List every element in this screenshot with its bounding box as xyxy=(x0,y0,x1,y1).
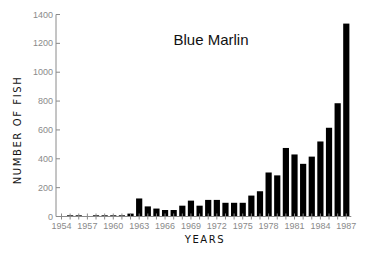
y-tick-label: 1200 xyxy=(33,38,53,48)
x-tick-label: 1963 xyxy=(129,221,149,231)
x-tick-label: 1954 xyxy=(51,221,71,231)
y-tick-label: 400 xyxy=(38,154,53,164)
y-tick-label: 200 xyxy=(38,183,53,193)
blue-marlin-chart: 0200400600800100012001400 19541957196019… xyxy=(0,0,371,253)
bar-1985 xyxy=(326,128,332,217)
x-tick-label: 1969 xyxy=(181,221,201,231)
y-tick-label: 800 xyxy=(38,96,53,106)
x-axis-title: YEARS xyxy=(184,234,226,245)
y-axis-title: NUMBER OF FISH xyxy=(12,76,23,185)
chart-title: Blue Marlin xyxy=(173,31,248,48)
bar-1986 xyxy=(335,103,341,216)
x-tick-label: 1981 xyxy=(284,221,304,231)
y-tick-label: 1400 xyxy=(33,10,53,20)
bar-1978 xyxy=(266,172,272,216)
x-tick-label: 1972 xyxy=(207,221,227,231)
bar-1977 xyxy=(257,191,263,216)
x-tick-label: 1966 xyxy=(155,221,175,231)
bar-1980 xyxy=(283,148,289,217)
bars-group xyxy=(67,24,349,217)
x-tick-label: 1978 xyxy=(259,221,279,231)
bar-1979 xyxy=(274,175,280,216)
x-tick-label: 1975 xyxy=(233,221,253,231)
bar-1981 xyxy=(291,154,297,216)
x-tick-label: 1984 xyxy=(310,221,330,231)
bar-1984 xyxy=(317,141,323,216)
x-tick-label: 1957 xyxy=(77,221,97,231)
y-tick-label: 1000 xyxy=(33,67,53,77)
bar-1987 xyxy=(343,24,349,217)
y-tick-label: 600 xyxy=(38,125,53,135)
bar-1976 xyxy=(248,196,254,217)
bar-1983 xyxy=(309,157,315,217)
x-tick-label: 1987 xyxy=(336,221,356,231)
x-tick-label: 1960 xyxy=(103,221,123,231)
bar-1982 xyxy=(300,164,306,217)
